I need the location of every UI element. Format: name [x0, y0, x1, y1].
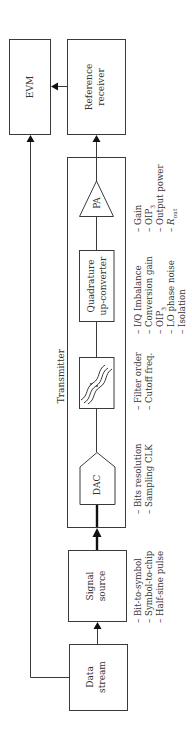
filter-note-cutoff: – Cutoff freq. — [144, 353, 154, 410]
quad-note-lo-noise: – LO phase noise — [166, 260, 176, 334]
pa-block: PA — [80, 181, 114, 217]
source-note-bit-to-symbol: – Bit-to-symbol — [133, 558, 143, 623]
reference-receiver-block: Reference receiver — [68, 40, 126, 135]
dac-block: DAC — [80, 453, 115, 505]
pa-note-gain: – Gain — [133, 204, 143, 232]
evm-block: EVM — [10, 40, 51, 135]
arrow-ref-to-evm — [51, 83, 67, 91]
arrow-data-to-source — [94, 622, 102, 644]
quadrature-label-line1: Quadrature — [86, 259, 96, 312]
quadrature-annotations: – I/Q Imbalance – Conversion gain – OIP3… — [133, 256, 187, 334]
source-note-symbol-to-chip: – Symbol-to-chip — [144, 550, 154, 623]
source-note-half-sine: – Half-sine pulse — [155, 551, 165, 623]
pa-label: PA — [92, 197, 102, 209]
quadrature-upconverter-block: Quadrature up-converter — [80, 251, 115, 322]
data-stream-block: Data stream — [70, 645, 128, 711]
filter-note-order: – Filter order — [133, 351, 143, 410]
pa-note-output-power: – Output power — [155, 164, 165, 232]
evm-label: EVM — [25, 76, 35, 98]
filter-annotations: – Filter order – Cutoff freq. — [133, 351, 154, 410]
block-diagram: EVM Reference receiver Transmitter PA Qu… — [0, 0, 192, 753]
dac-label: DAC — [92, 475, 102, 496]
signal-source-label-line1: Signal — [85, 571, 95, 600]
pa-annotations: – Gain – OIP3 – Output power – Rout — [133, 164, 178, 232]
reference-receiver-label-line1: Reference — [84, 64, 94, 111]
reference-receiver-label-line2: receiver — [96, 68, 106, 106]
quadrature-label-line2: up-converter — [98, 256, 108, 316]
dac-note-bits: – Bits resolution — [133, 443, 143, 514]
signal-source-annotations: – Bit-to-symbol – Symbol-to-chip – Half-… — [133, 550, 165, 623]
pa-note-rout: – Rout — [166, 208, 178, 232]
quad-note-oip3: – OIP3 — [155, 307, 167, 334]
data-stream-label-line1: Data — [85, 666, 95, 688]
signal-source-block: Signal source — [69, 551, 127, 622]
transmitter-label: Transmitter — [56, 348, 66, 403]
quad-note-conv-gain: – Conversion gain — [144, 256, 154, 334]
filter-block — [80, 358, 115, 409]
signal-source-label-line2: source — [97, 571, 107, 602]
quad-note-isolation: – Isolation — [177, 289, 187, 334]
quad-note-iq: – I/Q Imbalance — [133, 265, 143, 334]
pa-note-oip3: – OIP3 — [144, 205, 156, 232]
arrow-data-to-evm — [27, 135, 70, 678]
dac-note-clk: – Sampling CLK — [144, 444, 154, 514]
dac-annotations: – Bits resolution – Sampling CLK — [133, 443, 154, 514]
data-stream-label-line2: stream — [97, 661, 107, 693]
